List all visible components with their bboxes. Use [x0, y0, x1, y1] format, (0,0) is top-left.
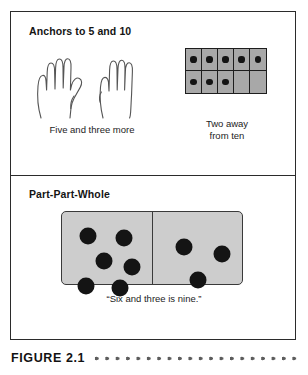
- ten-frame-dot: [206, 79, 212, 85]
- caption-hands: Five and three more: [19, 124, 165, 136]
- ten-frame-dot: [190, 56, 196, 62]
- domino-pip: [214, 246, 231, 263]
- panel-anchors: Anchors to 5 and 10 Five and three: [11, 12, 295, 175]
- domino-pip: [96, 253, 113, 270]
- caption-ten-frame: Two away from ten: [171, 118, 283, 141]
- domino-pip: [190, 272, 207, 289]
- domino-pip: [78, 278, 95, 295]
- ten-frame: [185, 48, 267, 94]
- caption-domino: “Six and three is nine.”: [29, 293, 279, 305]
- left-hand-icon: [38, 59, 82, 118]
- figure-caption-dotted-rule: [94, 352, 301, 365]
- ten-frame-cell: [218, 49, 234, 71]
- domino-pip: [116, 230, 133, 247]
- ten-frame-dot-empty: [255, 79, 261, 85]
- two-hands-drawing: [29, 44, 153, 122]
- ten-frame-cell-empty: [250, 71, 266, 93]
- domino-divider: [152, 212, 153, 284]
- figure-root: Anchors to 5 and 10 Five and three: [0, 0, 308, 375]
- ten-frame-dot: [255, 56, 261, 62]
- ten-frame-dot: [206, 56, 212, 62]
- domino: [61, 211, 243, 285]
- ten-frame-cell: [250, 49, 266, 71]
- panel-heading-anchors: Anchors to 5 and 10: [29, 25, 131, 37]
- ten-frame-cell-empty: [234, 71, 250, 93]
- domino-half-left: [62, 212, 152, 284]
- figure-outer-box: Anchors to 5 and 10 Five and three: [10, 11, 296, 340]
- ten-frame-dot-empty: [238, 79, 244, 85]
- domino-pip: [124, 259, 141, 276]
- ten-frame-cell: [186, 71, 202, 93]
- domino-pip: [176, 239, 193, 256]
- ten-frame-dot: [222, 79, 228, 85]
- ten-frame-cell: [218, 71, 234, 93]
- figure-caption: FIGURE 2.1: [11, 349, 301, 367]
- ten-frame-dot: [222, 56, 228, 62]
- panel-heading-part-part-whole: Part-Part-Whole: [29, 188, 110, 200]
- ten-frame-dot: [190, 79, 196, 85]
- panel-part-part-whole: Part-Part-Whole “Six and three is: [11, 175, 295, 338]
- right-hand-icon: [100, 60, 133, 118]
- ten-frame-cell: [186, 49, 202, 71]
- hands-illustration: [29, 44, 153, 122]
- ten-frame-dot: [238, 56, 244, 62]
- ten-frame-cell: [202, 71, 218, 93]
- figure-caption-label: FIGURE 2.1: [11, 351, 85, 365]
- ten-frame-cell: [202, 49, 218, 71]
- domino-half-right: [152, 212, 242, 284]
- domino-pip: [80, 228, 97, 245]
- ten-frame-cell: [234, 49, 250, 71]
